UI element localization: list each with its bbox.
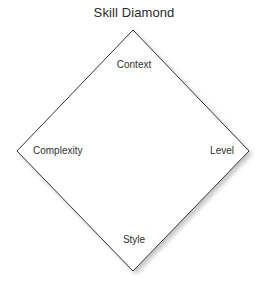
diagram-container: Skill Diamond Context Complexity Level S…: [0, 0, 268, 291]
vertex-label-context: Context: [0, 59, 268, 71]
vertex-label-level: Level: [0, 145, 234, 157]
vertex-label-style: Style: [0, 234, 268, 246]
